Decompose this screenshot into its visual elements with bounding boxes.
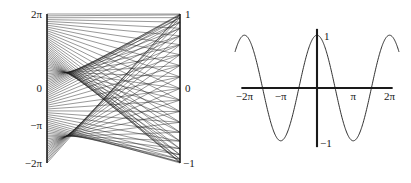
x-tick-label-neg-2pi: −2π (227, 91, 261, 102)
line-family-panel: 2π 0 −π −2π 1 0 −1 (0, 0, 205, 183)
y-tick-label-1: 1 (324, 31, 340, 42)
y-tick-label-neg-1: −1 (320, 138, 342, 149)
cosine-curve-panel: 1 −1 −2π −π π 2π (205, 0, 411, 183)
x-tick-label-neg-pi: −π (268, 91, 294, 102)
chord-lines (47, 14, 180, 163)
cosine-value-tick-label-1: 1 (185, 9, 203, 20)
theta-tick-label-neg-2pi: −2π (4, 158, 42, 169)
cosine-value-tick-label-0: 0 (185, 83, 203, 94)
theta-tick-label-0: 0 (6, 83, 42, 94)
theta-tick-label-neg-pi: −π (6, 120, 42, 131)
x-tick-label-2pi: 2π (376, 91, 404, 102)
cosine-value-tick-label-neg-1: −1 (183, 158, 203, 169)
theta-tick-label-2pi: 2π (6, 9, 42, 20)
figure-root: 2π 0 −π −2π 1 0 −1 1 −1 −2π −π π 2π (0, 0, 411, 183)
x-tick-label-pi: π (344, 91, 362, 102)
